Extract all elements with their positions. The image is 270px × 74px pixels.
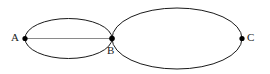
point-a (22, 36, 27, 41)
diagram-canvas: A B C (0, 0, 270, 74)
point-label-a: A (11, 32, 19, 43)
right-ellipse (112, 8, 242, 69)
point-c (239, 36, 244, 41)
point-label-b: B (107, 45, 114, 56)
point-b (109, 36, 115, 42)
point-label-c: C (247, 32, 254, 43)
ellipse-figure (0, 0, 270, 74)
